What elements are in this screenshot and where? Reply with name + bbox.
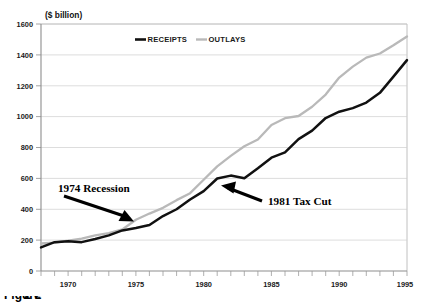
legend-label-outlays: OUTLAYS xyxy=(209,35,246,44)
annotation-label-1974-recession: 1974 Recession xyxy=(58,182,131,194)
y-tick-label: 1600 xyxy=(17,20,33,29)
x-tick-label: 1985 xyxy=(263,280,279,289)
figure-container: 1600 1400 1200 1000 800 600 400 200 0 xyxy=(0,0,423,306)
y-tick-label: 400 xyxy=(21,205,33,214)
y-tick-label: 0 xyxy=(29,267,33,276)
chart-background xyxy=(0,0,423,306)
x-tick-label: 1975 xyxy=(128,280,144,289)
legend-label-receipts: RECEIPTS xyxy=(148,35,188,44)
figure-caption-number: 2-2 xyxy=(24,296,41,302)
x-tick-label: 1980 xyxy=(195,280,211,289)
y-tick-label: 800 xyxy=(21,143,33,152)
y-axis-unit-label: ($ billion) xyxy=(45,10,82,20)
annotation-label-1981-tax-cut: 1981 Tax Cut xyxy=(268,195,332,207)
y-tick-label: 1000 xyxy=(17,112,33,121)
figure-caption: Figure2-2 xyxy=(0,296,200,306)
x-tick-label: 1990 xyxy=(331,280,347,289)
x-tick-label: 1995 xyxy=(397,280,413,289)
y-tick-label: 1200 xyxy=(17,82,33,91)
receipts-outlays-line-chart: 1600 1400 1200 1000 800 600 400 200 0 xyxy=(0,0,423,306)
x-tick-label: 1970 xyxy=(60,280,76,289)
y-tick-label: 600 xyxy=(21,174,33,183)
y-tick-label: 1400 xyxy=(17,51,33,60)
y-tick-label: 200 xyxy=(21,236,33,245)
